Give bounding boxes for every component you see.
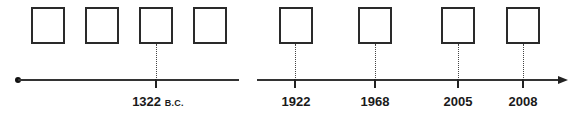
timeline-right-line: [257, 79, 559, 81]
year-label-1968: 1968: [361, 94, 390, 109]
answer-box-2005[interactable]: [441, 7, 475, 44]
year-value: 1322: [132, 94, 161, 109]
connector-2005: [458, 44, 459, 80]
answer-box-4[interactable]: [193, 7, 227, 44]
tick-2008: [522, 79, 524, 88]
year-label-2005: 2005: [444, 94, 473, 109]
timeline-left-line: [18, 79, 239, 81]
tick-2005: [457, 79, 459, 88]
tick-1968: [374, 79, 376, 88]
year-label-1922: 1922: [282, 94, 311, 109]
year-label-2008: 2008: [509, 94, 538, 109]
answer-box-2[interactable]: [85, 7, 119, 44]
answer-box-2008[interactable]: [506, 7, 540, 44]
answer-box-1922[interactable]: [279, 7, 313, 44]
arrow-head-icon: [558, 76, 568, 84]
era-label: B.C.: [165, 98, 184, 108]
year-label-1322: 1322 B.C.: [132, 94, 184, 109]
connector-2008: [523, 44, 524, 80]
answer-box-3[interactable]: [139, 7, 173, 44]
answer-box-1[interactable]: [31, 7, 65, 44]
tick-1322: [155, 79, 157, 88]
tick-1922: [294, 79, 296, 88]
connector-1922: [295, 44, 296, 80]
connector-1968: [375, 44, 376, 80]
answer-box-1968[interactable]: [358, 7, 392, 44]
connector-1322: [156, 44, 157, 80]
